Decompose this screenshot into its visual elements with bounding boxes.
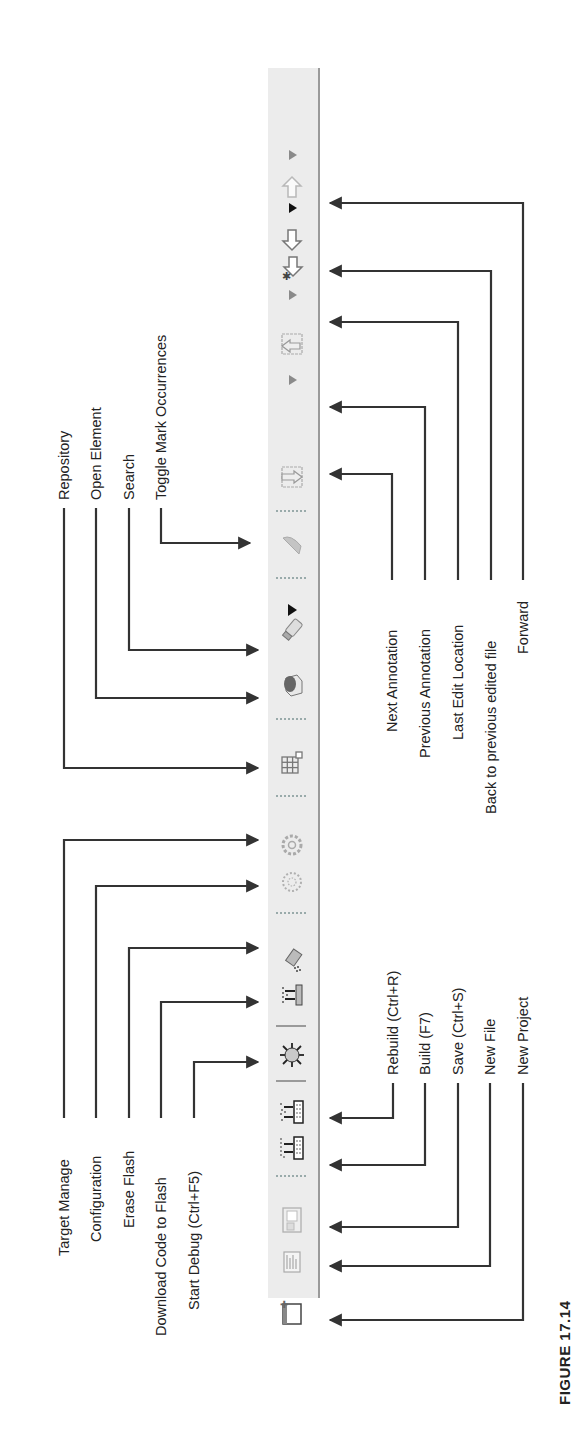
- label-last-edit-location: Last Edit Location: [450, 625, 466, 740]
- bug-icon: [279, 1042, 305, 1068]
- toggle-mark-occurrences-button[interactable]: [272, 532, 312, 558]
- label-previous-annotation: Previous Annotation: [417, 629, 433, 758]
- back-to-previous-edited-file-button[interactable]: [272, 227, 312, 253]
- erase-flash-icon: [279, 947, 305, 973]
- new-file-icon: [279, 1249, 305, 1275]
- label-back-to-previous-edited-file: Back to previous edited file: [483, 641, 499, 814]
- toolbar-separator: [276, 718, 306, 722]
- label-build: Build (F7): [417, 1012, 433, 1075]
- label-forward: Forward: [515, 601, 531, 654]
- open-element-icon: [279, 672, 305, 698]
- label-start-debug: Start Debug (Ctrl+F5): [186, 1171, 202, 1310]
- label-search: Search: [121, 454, 137, 500]
- toolbar-separator: [276, 912, 306, 916]
- label-erase-flash: Erase Flash: [121, 1151, 137, 1228]
- last-edit-location-button[interactable]: ✱: [272, 255, 312, 281]
- target-manage-button[interactable]: [272, 869, 312, 895]
- dropdown-arrow-icon[interactable]: [272, 142, 312, 168]
- label-download-code-to-flash: Download Code to Flash: [153, 1177, 169, 1336]
- erase-flash-button[interactable]: [272, 947, 312, 973]
- toolbar-separator: [276, 1080, 306, 1082]
- repository-button[interactable]: [272, 750, 312, 776]
- flashlight-icon: [279, 617, 305, 643]
- rebuild-icon: [279, 1099, 305, 1125]
- download-code-to-flash-button[interactable]: [272, 982, 312, 1008]
- gear-icon: [279, 832, 305, 858]
- previous-annotation-button[interactable]: [272, 332, 312, 358]
- new-file-button[interactable]: [272, 1249, 312, 1275]
- rebuild-button[interactable]: [272, 1099, 312, 1125]
- next-annotation-icon: [278, 465, 306, 491]
- dropdown-arrow-icon[interactable]: [272, 195, 312, 221]
- figure-caption: FIGURE 17.14: [556, 1301, 573, 1405]
- save-icon: [279, 1206, 305, 1234]
- previous-annotation-icon: [278, 332, 306, 358]
- svg-text:✚: ✚: [280, 1299, 288, 1310]
- label-next-annotation: Next Annotation: [384, 630, 400, 732]
- toolbar-separator: [276, 510, 306, 514]
- arrow-down-icon: [281, 228, 303, 252]
- toolbar-separator: [276, 795, 306, 799]
- svg-text:✱: ✱: [282, 270, 291, 281]
- label-configuration: Configuration: [88, 1156, 104, 1242]
- dropdown-arrow-icon[interactable]: [272, 282, 312, 308]
- toolbar-separator: [276, 1025, 306, 1027]
- label-toggle-mark-occurrences: Toggle Mark Occurrences: [153, 335, 169, 500]
- new-project-icon: ✚: [279, 1298, 305, 1326]
- label-new-file: New File: [482, 1019, 498, 1075]
- gear-dotted-icon: [279, 869, 305, 895]
- toolbar-separator: [276, 1175, 306, 1179]
- grid-icon: [279, 750, 305, 776]
- label-repository: Repository: [56, 431, 72, 500]
- build-icon: [279, 1135, 305, 1161]
- start-debug-button[interactable]: [272, 1042, 312, 1068]
- search-button[interactable]: [272, 617, 312, 643]
- label-open-element: Open Element: [88, 407, 104, 500]
- label-save: Save (Ctrl+S): [450, 988, 466, 1075]
- configuration-button[interactable]: [272, 832, 312, 858]
- open-element-button[interactable]: [272, 672, 312, 698]
- build-button[interactable]: [272, 1135, 312, 1161]
- arrow-down-star-icon: ✱: [280, 255, 304, 281]
- dropdown-arrow-icon[interactable]: [272, 367, 312, 393]
- new-project-button[interactable]: ✚: [272, 1299, 312, 1325]
- highlighter-icon: [279, 532, 305, 558]
- label-target-manage: Target Manage: [56, 1159, 72, 1256]
- download-chip-icon: [279, 982, 305, 1008]
- label-rebuild: Rebuild (Ctrl+R): [385, 971, 401, 1075]
- toolbar-separator: [276, 577, 306, 581]
- label-new-project: New Project: [515, 997, 531, 1075]
- next-annotation-button[interactable]: [272, 465, 312, 491]
- save-button[interactable]: [272, 1207, 312, 1233]
